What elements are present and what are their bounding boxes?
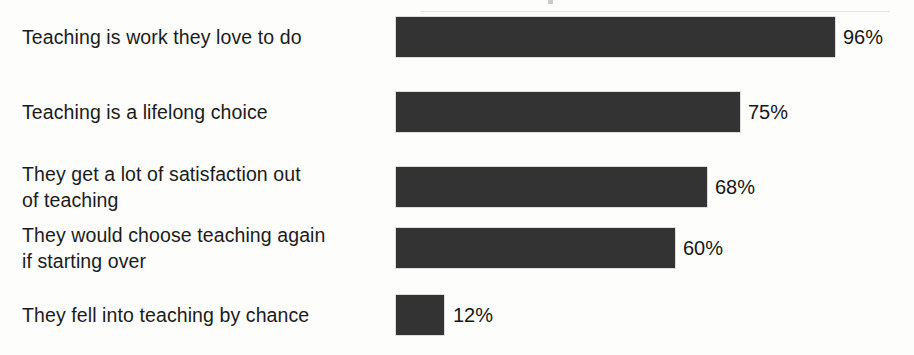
scan-artifact-dot [548,0,553,4]
bar-category-label: Teaching is work they love to do [22,24,388,50]
bar-fill [396,228,675,268]
bar-row: They fell into teaching by chance 12% [0,295,914,335]
bar-fill [396,17,835,57]
bar-chart: Teaching is work they love to do 96% Tea… [0,0,914,355]
bar-category-label: Teaching is a lifelong choice [22,99,388,125]
bar-value-label: 60% [683,237,723,259]
scan-artifact-line [420,11,890,12]
bar-row: They get a lot of satisfaction out of te… [0,167,914,207]
bar-fill [396,295,444,335]
bar-row: Teaching is work they love to do 96% [0,17,914,57]
bar-value-label: 75% [748,101,788,123]
bar-value-label: 68% [715,176,755,198]
bar-category-label: They would choose teaching again if star… [22,222,388,274]
bar-category-label: They fell into teaching by chance [22,302,388,328]
bar-value-label: 96% [843,26,883,48]
bar-value-label: 12% [453,304,493,326]
bar-row: They would choose teaching again if star… [0,228,914,268]
bar-fill [396,92,740,132]
bar-row: Teaching is a lifelong choice 75% [0,92,914,132]
bar-category-label: They get a lot of satisfaction out of te… [22,161,388,213]
bar-fill [396,167,707,207]
